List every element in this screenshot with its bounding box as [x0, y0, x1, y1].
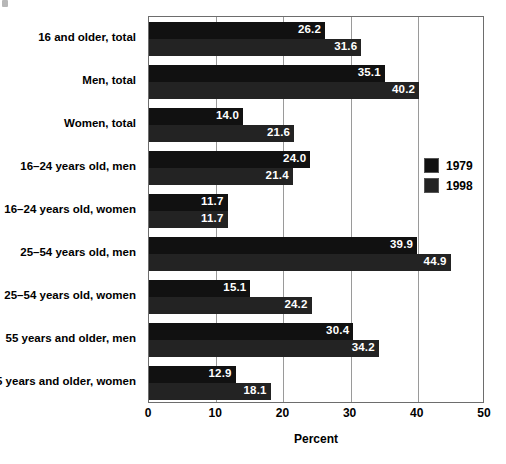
bar-value-label: 15.1 — [223, 282, 246, 294]
legend-label: 1998 — [446, 180, 473, 192]
bar-1979: 12.9 — [149, 366, 236, 383]
bar-value-label: 39.9 — [390, 239, 413, 251]
bar-row: 39.9 — [149, 237, 485, 254]
bar-1998: 24.2 — [149, 297, 312, 314]
bar-1979: 35.1 — [149, 65, 385, 82]
bar-1998: 18.1 — [149, 383, 271, 400]
bar-value-label: 24.0 — [283, 153, 306, 165]
x-tick-20: 20 — [276, 407, 289, 419]
bar-row: 34.2 — [149, 340, 485, 357]
bar-value-label: 26.2 — [298, 24, 321, 36]
bar-1979: 26.2 — [149, 22, 325, 39]
chart-legend: 19791998 — [424, 158, 494, 198]
bar-value-label: 12.9 — [209, 368, 232, 380]
category-label: 16–24 years old, men — [20, 161, 136, 173]
x-tick-40: 40 — [410, 407, 423, 419]
bar-1998: 31.6 — [149, 39, 361, 56]
bar-row: 18.1 — [149, 383, 485, 400]
bar-row: 35.1 — [149, 65, 485, 82]
x-axis-ticks: 01020304050 — [148, 404, 484, 424]
category-label: 16 and older, total — [38, 32, 136, 44]
bar-row: 31.6 — [149, 39, 485, 56]
bar-1998: 34.2 — [149, 340, 379, 357]
bar-1998: 40.2 — [149, 82, 419, 99]
legend-item[interactable]: 1979 — [424, 158, 494, 173]
bar-value-label: 35.1 — [358, 67, 381, 79]
bar-1998: 11.7 — [149, 211, 228, 228]
bar-row: 11.7 — [149, 211, 485, 228]
x-tick-30: 30 — [343, 407, 356, 419]
bar-value-label: 21.4 — [266, 170, 289, 182]
bar-1998: 21.6 — [149, 125, 294, 142]
bar-value-label: 31.6 — [334, 41, 357, 53]
chart-figure: 16 and older, totalMen, totalWomen, tota… — [0, 0, 506, 464]
bar-value-label: 30.4 — [326, 325, 349, 337]
legend-swatch-icon — [424, 178, 439, 193]
bar-row: 21.6 — [149, 125, 485, 142]
bar-value-label: 21.6 — [267, 127, 290, 139]
legend-label: 1979 — [446, 160, 473, 172]
bar-1979: 24.0 — [149, 151, 310, 168]
legend-item[interactable]: 1998 — [424, 178, 494, 193]
bar-value-label: 24.2 — [284, 299, 307, 311]
bar-row: 40.2 — [149, 82, 485, 99]
x-tick-50: 50 — [477, 407, 490, 419]
legend-swatch-icon — [424, 158, 439, 173]
bar-1979: 14.0 — [149, 108, 243, 125]
bar-value-label: 34.2 — [352, 342, 375, 354]
category-label: 55 years and older, women — [0, 376, 136, 388]
category-label: 25–54 years old, men — [20, 247, 136, 259]
bar-value-label: 11.7 — [201, 213, 224, 225]
bar-1979: 30.4 — [149, 323, 353, 340]
bar-row: 44.9 — [149, 254, 485, 271]
bar-row: 12.9 — [149, 366, 485, 383]
category-label: 55 years and older, men — [6, 333, 136, 345]
bar-1979: 11.7 — [149, 194, 228, 211]
scan-artifact — [2, 0, 8, 7]
bar-value-label: 11.7 — [201, 196, 224, 208]
bar-value-label: 18.1 — [243, 385, 266, 397]
bar-1998: 44.9 — [149, 254, 451, 271]
category-label: Women, total — [64, 118, 136, 130]
x-axis-title: Percent — [148, 432, 484, 446]
category-label: Men, total — [82, 75, 136, 87]
bar-1979: 15.1 — [149, 280, 250, 297]
x-tick-10: 10 — [209, 407, 222, 419]
bar-row: 30.4 — [149, 323, 485, 340]
bar-value-label: 14.0 — [216, 110, 239, 122]
bar-row: 24.2 — [149, 297, 485, 314]
bars-layer: 26.231.635.140.214.021.624.021.411.711.7… — [149, 17, 483, 402]
bar-row: 15.1 — [149, 280, 485, 297]
bar-1979: 39.9 — [149, 237, 417, 254]
category-label: 16–24 years old, women — [4, 204, 136, 216]
bar-1998: 21.4 — [149, 168, 293, 185]
plot-area: 26.231.635.140.214.021.624.021.411.711.7… — [148, 16, 484, 403]
bar-row: 14.0 — [149, 108, 485, 125]
category-axis-labels: 16 and older, totalMen, totalWomen, tota… — [0, 16, 142, 403]
bar-value-label: 44.9 — [424, 256, 447, 268]
x-tick-0: 0 — [145, 407, 152, 419]
bar-value-label: 40.2 — [392, 84, 415, 96]
category-label: 25–54 years old, women — [4, 290, 136, 302]
bar-row: 26.2 — [149, 22, 485, 39]
